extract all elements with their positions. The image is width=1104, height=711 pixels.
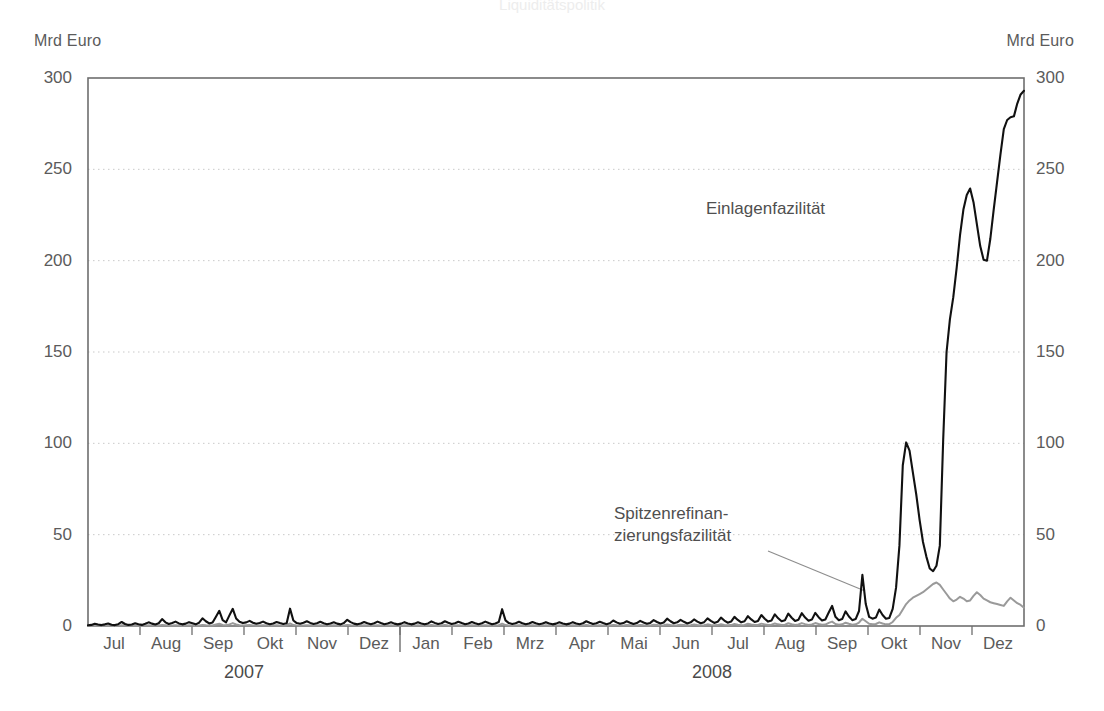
x-axis-year-label: 2007 [224,662,264,683]
x-axis-tick-label: Jul [727,634,749,654]
chart-canvas [0,0,1104,711]
y-axis-tick-label: 0 [26,616,72,636]
x-axis-tick-label: Okt [257,634,283,654]
x-axis-tick-label: Dez [983,634,1013,654]
y-axis-tick-label: 300 [1036,68,1064,88]
y-axis-tick-label: 100 [1036,433,1064,453]
x-axis-tick-label: Nov [931,634,961,654]
x-axis-tick-label: Aug [775,634,805,654]
y-axis-unit-label-right: Mrd Euro [1007,32,1074,50]
x-axis-tick-label: Sep [827,634,857,654]
x-axis-tick-label: Mrz [516,634,544,654]
y-axis-tick-label: 250 [1036,159,1064,179]
y-axis-tick-label: 200 [26,251,72,271]
y-axis-tick-label: 100 [26,433,72,453]
x-axis-tick-label: Dez [359,634,389,654]
y-axis-tick-label: 0 [1036,616,1045,636]
y-axis-unit-label-left: Mrd Euro [34,32,101,50]
x-axis-tick-label: Nov [307,634,337,654]
gridlines [88,169,1024,534]
x-axis-tick-label: Aug [151,634,181,654]
y-axis-tick-label: 50 [26,525,72,545]
annotation-leader-line [768,551,865,591]
y-axis-tick-label: 50 [1036,525,1055,545]
chart-root: Liquiditätspolitik Mrd Euro Mrd Euro Ein… [0,0,1104,711]
x-axis-tick-label: Mai [620,634,647,654]
y-axis-tick-label: 300 [26,68,72,88]
x-axis-tick-label: Jan [412,634,439,654]
x-axis-tick-label: Sep [203,634,233,654]
faint-top-title: Liquiditätspolitik [0,0,1104,13]
series-annotation-deposit-facility: Einlagenfazilität [706,198,825,220]
x-axis-tick-label: Feb [463,634,492,654]
x-axis-tick-label: Apr [569,634,595,654]
x-axis-tick-label: Okt [881,634,907,654]
y-axis-tick-label: 200 [1036,251,1064,271]
x-axis-tick-label: Jul [103,634,125,654]
y-axis-tick-label: 250 [26,159,72,179]
x-axis-tick-label: Jun [672,634,699,654]
y-axis-tick-label: 150 [1036,342,1064,362]
series-annotation-marginal-lending-facility: Spitzenrefinan- zierungsfazilität [614,503,731,548]
series-line-deposit-facility [88,91,1024,625]
y-axis-tick-label: 150 [26,342,72,362]
x-axis-year-label: 2008 [692,662,732,683]
